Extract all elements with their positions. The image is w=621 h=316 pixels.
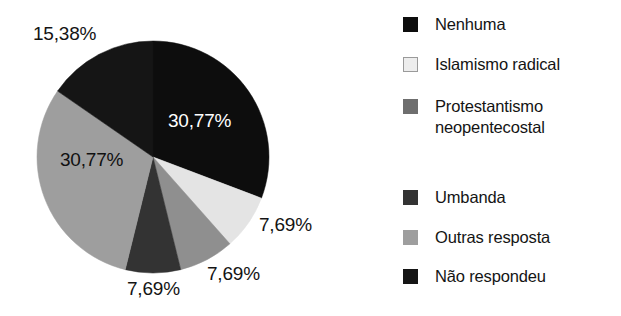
legend-label-protestantismo-neopentecostal: Protestantismo neopentecostal [435, 96, 545, 138]
legend-label-nenhuma: Nenhuma [435, 14, 506, 35]
legend-item-nenhuma[interactable]: Nenhuma [403, 14, 506, 35]
legend-swatch-icon-nao-respondeu [403, 269, 418, 284]
legend-item-outras-resposta[interactable]: Outras resposta [403, 227, 550, 248]
legend-swatch-icon-umbanda [403, 190, 418, 205]
slice-label-umbanda: 7,69% [127, 279, 180, 298]
pie-chart-plot-area: 30,77% 7,69% 7,69% 7,69% 30,77% 15,38% [0, 0, 395, 316]
legend-swatch-icon-nenhuma [403, 17, 418, 32]
chart-legend: Nenhuma Islamismo radical Protestantismo… [403, 14, 621, 306]
pie-chart-figure: 30,77% 7,69% 7,69% 7,69% 30,77% 15,38% N… [0, 0, 621, 316]
legend-label-umbanda: Umbanda [435, 187, 506, 208]
slice-label-islamismo-radical: 7,69% [259, 215, 312, 234]
slice-label-protestantismo-neopentecostal: 7,69% [207, 264, 260, 283]
legend-item-nao-respondeu[interactable]: Não respondeu [403, 266, 546, 287]
legend-item-umbanda[interactable]: Umbanda [403, 187, 506, 208]
slice-label-outras-resposta: 30,77% [60, 150, 123, 169]
slice-label-nenhuma: 30,77% [168, 111, 231, 130]
legend-item-islamismo-radical[interactable]: Islamismo radical [403, 54, 560, 75]
legend-swatch-icon-outras-resposta [403, 230, 418, 245]
legend-label-outras-resposta: Outras resposta [435, 227, 550, 248]
legend-swatch-icon-protestantismo-neopentecostal [403, 99, 418, 114]
legend-label-islamismo-radical: Islamismo radical [435, 54, 560, 75]
legend-item-protestantismo-neopentecostal[interactable]: Protestantismo neopentecostal [403, 96, 545, 138]
legend-swatch-icon-islamismo-radical [403, 57, 418, 72]
slice-label-nao-respondeu: 15,38% [33, 24, 96, 43]
legend-label-nao-respondeu: Não respondeu [435, 266, 546, 287]
